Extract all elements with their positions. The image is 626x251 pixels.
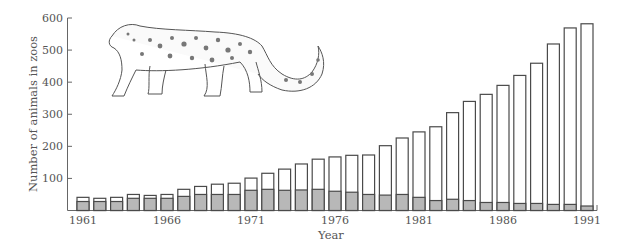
bar-gray-segment	[430, 201, 442, 211]
bar-chart: 100200300400500600 196119661971197619811…	[0, 0, 626, 251]
bar-gray-segment	[245, 190, 257, 210]
bar-1971	[245, 178, 257, 210]
bar-1981	[413, 132, 425, 211]
bar-1988	[531, 63, 543, 210]
bar-1962	[94, 198, 106, 210]
bar-gray-segment	[94, 202, 106, 211]
bar-1978	[363, 155, 375, 211]
bar-1977	[346, 155, 358, 210]
bar-1964	[127, 194, 139, 210]
bar-1990	[564, 28, 576, 211]
bar-gray-segment	[547, 204, 559, 210]
bar-1985	[480, 94, 492, 210]
x-tick-labels: 1961196619711976198119861991	[69, 214, 601, 227]
bar-total	[447, 113, 459, 211]
x-tick-label: 1961	[69, 214, 97, 227]
y-axis-title: Number of animals in zoos	[26, 36, 40, 192]
bar-1983	[447, 113, 459, 211]
bar-1963	[111, 197, 123, 210]
bar-1966	[161, 194, 173, 210]
bar-total	[547, 44, 559, 211]
x-tick-label: 1966	[153, 214, 181, 227]
bar-gray-segment	[514, 203, 526, 210]
bar-total	[497, 85, 509, 210]
bar-1969	[211, 184, 223, 210]
bar-1986	[497, 85, 509, 210]
x-tick-label: 1991	[573, 214, 601, 227]
bar-total	[564, 28, 576, 211]
bar-gray-segment	[447, 199, 459, 210]
bar-1979	[379, 146, 391, 211]
bar-1984	[463, 101, 475, 210]
bar-total	[531, 63, 543, 210]
bar-gray-segment	[396, 194, 408, 210]
bar-total	[463, 101, 475, 210]
bar-1974	[295, 164, 307, 211]
bar-gray-segment	[262, 189, 274, 210]
bar-gray-segment	[228, 194, 240, 210]
bar-total	[514, 75, 526, 210]
y-tick-label: 500	[42, 44, 63, 57]
bar-gray-segment	[346, 192, 358, 210]
y-tick-label: 400	[42, 76, 63, 89]
bar-gray-segment	[111, 202, 123, 211]
bar-1967	[178, 189, 190, 210]
bar-gray-segment	[161, 198, 173, 210]
bar-1991	[581, 24, 593, 211]
x-tick-label: 1971	[237, 214, 265, 227]
bar-1976	[329, 157, 341, 211]
bar-1961	[77, 197, 89, 210]
bar-gray-segment	[581, 206, 593, 210]
x-tick-label: 1986	[489, 214, 517, 227]
bar-1972	[262, 173, 274, 210]
bar-gray-segment	[127, 198, 139, 210]
bars	[77, 24, 593, 211]
bar-gray-segment	[329, 191, 341, 210]
bar-1980	[396, 138, 408, 211]
y-tick-label: 100	[42, 172, 63, 185]
bar-gray-segment	[312, 189, 324, 210]
bar-gray-segment	[77, 202, 89, 211]
bar-1982	[430, 127, 442, 211]
bar-1968	[195, 186, 207, 210]
bar-1965	[144, 195, 156, 210]
y-tick-label: 300	[42, 108, 63, 121]
bar-gray-segment	[195, 194, 207, 210]
bar-1973	[279, 169, 291, 210]
bar-gray-segment	[413, 197, 425, 210]
bar-gray-segment	[463, 201, 475, 211]
bar-gray-segment	[480, 202, 492, 210]
bar-gray-segment	[379, 195, 391, 210]
y-tick-label: 600	[42, 12, 63, 25]
snow-leopard-illustration	[109, 24, 323, 96]
x-tick-label: 1976	[321, 214, 349, 227]
bar-1989	[547, 44, 559, 211]
bar-total	[581, 24, 593, 211]
bar-1987	[514, 75, 526, 210]
bar-gray-segment	[295, 190, 307, 211]
bar-gray-segment	[497, 202, 509, 210]
bar-1970	[228, 183, 240, 210]
bar-1975	[312, 159, 324, 210]
bar-gray-segment	[531, 203, 543, 210]
bar-total	[480, 94, 492, 210]
bar-gray-segment	[211, 194, 223, 210]
bar-total	[430, 127, 442, 211]
bar-gray-segment	[279, 190, 291, 210]
x-axis-title: Year	[317, 228, 344, 242]
x-tick-label: 1981	[405, 214, 433, 227]
bar-gray-segment	[178, 196, 190, 210]
bar-gray-segment	[363, 194, 375, 210]
bar-gray-segment	[144, 198, 156, 210]
bar-gray-segment	[564, 204, 576, 210]
y-tick-label: 200	[42, 140, 63, 153]
